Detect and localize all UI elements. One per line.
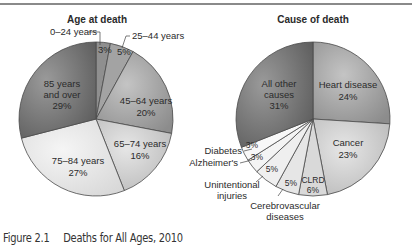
label-cerebrovascular-line2: diseases xyxy=(266,211,304,222)
label-85-years-line2: and over xyxy=(44,89,81,100)
label-0-24-years: 0–24 years xyxy=(50,26,97,37)
pct-85-years-and-over: 29% xyxy=(52,100,72,111)
pct-45-64-years: 20% xyxy=(136,107,156,118)
pct-alzheimers: 3% xyxy=(251,152,264,162)
label-25-44-years: 25–44 years xyxy=(132,30,185,41)
pct-cancer: 23% xyxy=(338,149,358,160)
figure-title: Deaths for All Ages, 2010 xyxy=(63,231,183,245)
pct-unintentional-injuries: 5% xyxy=(266,164,279,174)
pct-65-74-years: 16% xyxy=(130,150,150,161)
pct-cerebrovascular: 5% xyxy=(285,178,298,188)
pct-heart-disease: 24% xyxy=(338,91,358,102)
pie-charts: 0–24 years 3% 25–44 years 5% 45–64 years… xyxy=(0,0,412,249)
figure-caption: Figure 2.1Deaths for All Ages, 2010 xyxy=(3,231,183,245)
figure-number: Figure 2.1 xyxy=(3,231,49,245)
pct-clrd: 6% xyxy=(307,185,320,195)
pct-75-84-years: 27% xyxy=(68,167,88,178)
label-85-years-line1: 85 years xyxy=(44,78,81,89)
label-alzheimers: Alzheimer's xyxy=(189,157,238,168)
label-cancer: Cancer xyxy=(333,137,364,148)
label-unintentional-line2: injuries xyxy=(217,190,247,201)
label-75-84-years: 75–84 years xyxy=(52,155,105,166)
label-65-74-years: 65–74 years xyxy=(114,138,167,149)
pct-0-24-years: 3% xyxy=(98,44,112,55)
pct-all-other-causes: 31% xyxy=(269,100,289,111)
pct-diabetes: 3% xyxy=(246,140,259,150)
label-45-64-years: 45–64 years xyxy=(120,95,173,106)
pct-25-44-years: 5% xyxy=(117,46,131,57)
label-all-other-line1: All other xyxy=(262,78,297,89)
pie-age-at-death xyxy=(19,42,173,196)
label-cerebrovascular-line1: Cerebrovascular xyxy=(250,200,320,211)
label-clrd: CLRD xyxy=(301,175,324,185)
label-heart-disease: Heart disease xyxy=(319,79,378,90)
pie-cause-of-death xyxy=(236,42,390,196)
label-unintentional-line1: Unintentional xyxy=(204,179,259,190)
label-all-other-line2: causes xyxy=(264,89,294,100)
label-diabetes: Diabetes xyxy=(205,145,243,156)
